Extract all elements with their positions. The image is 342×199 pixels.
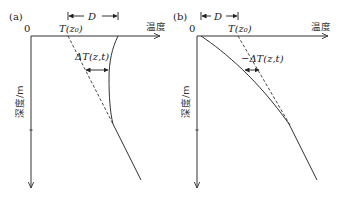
reference-gradient-line-a <box>68 36 113 124</box>
span-label-b: D <box>213 11 222 22</box>
span-indicator-a: D <box>68 11 118 22</box>
span-indicator-b: D <box>201 11 238 22</box>
reference-label-a: T(z₀) <box>59 23 83 34</box>
origin-label-b: 0 <box>189 23 195 34</box>
x-axis-label-b: 温度 <box>311 21 331 32</box>
panel-label-b: (b) <box>173 11 187 22</box>
y-axis-label-b: 深度/m <box>180 86 191 118</box>
reference-gradient-line-b <box>238 36 290 125</box>
x-axis-label-a: 温度 <box>146 21 166 32</box>
origin-label-a: 0 <box>24 23 30 34</box>
temperature-depth-diagram: (a) 0 温度 深度/m D T(z₀) ΔT(z,t) (b) 0 <box>0 0 342 199</box>
delta-label-a: ΔT(z,t) <box>74 51 109 62</box>
panel-a: (a) 0 温度 深度/m D T(z₀) ΔT(z,t) <box>9 11 166 189</box>
temperature-profile-curve-a <box>109 36 141 180</box>
reference-label-b: T(z₀) <box>228 23 252 34</box>
y-axis-label-a: 深度/m <box>14 86 25 118</box>
delta-label-b: −ΔT(z,t) <box>241 53 284 64</box>
panel-b: (b) 0 温度 深度/m D T(z₀) −ΔT(z,t) <box>173 11 331 189</box>
panel-label-a: (a) <box>9 11 23 22</box>
span-label-a: D <box>87 11 96 22</box>
